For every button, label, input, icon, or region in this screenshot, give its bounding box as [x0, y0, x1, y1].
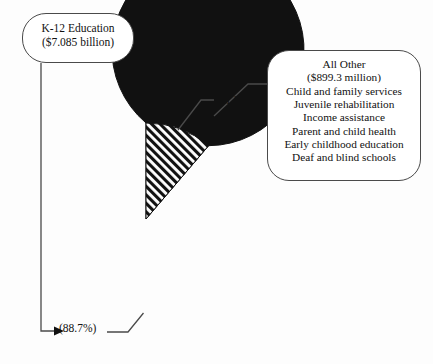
label-large-slice-percent: (88.7%): [59, 322, 96, 334]
callout-all-other: All Other ($899.3 million) Child and fam…: [267, 50, 421, 181]
k12-title: K-12 Education: [23, 22, 133, 36]
callout-k12-education: K-12 Education ($7.085 billion): [22, 13, 134, 63]
k12-amount: ($7.085 billion): [23, 36, 133, 50]
all-other-amount: ($899.3 million): [268, 71, 420, 84]
all-other-item-child-family-services: Child and family services: [268, 85, 420, 98]
all-other-item-early-childhood-education: Early childhood education: [268, 138, 420, 151]
all-other-item-income-assistance: Income assistance: [268, 111, 420, 124]
pie-chart-figure: K-12 Education ($7.085 billion) All Othe…: [0, 0, 433, 364]
all-other-item-juvenile-rehabilitation: Juvenile rehabilitation: [268, 98, 420, 111]
all-other-item-parent-child-health: Parent and child health: [268, 125, 420, 138]
label-small-slice-percent: (11.3%): [216, 94, 253, 106]
all-other-title: All Other: [268, 58, 420, 71]
all-other-item-deaf-blind-schools: Deaf and blind schools: [268, 151, 420, 164]
